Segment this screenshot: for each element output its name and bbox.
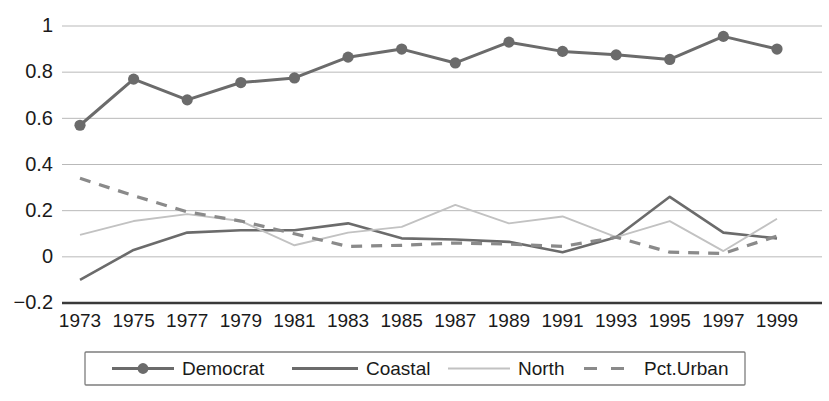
data-point-marker: [396, 43, 407, 54]
data-point-marker: [611, 49, 622, 60]
x-axis-tick-labels: 1973197519771979198119831985198719891991…: [59, 310, 798, 331]
x-axis-tick-label: 1995: [649, 310, 691, 331]
y-axis-tick-label: 0: [42, 245, 53, 267]
data-point-markers: [74, 31, 782, 131]
gridlines: [62, 26, 822, 303]
x-axis-tick-label: 1991: [541, 310, 583, 331]
data-point-marker: [557, 46, 568, 57]
chart-legend: DemocratCoastalNorthPct.Urban: [85, 352, 745, 385]
data-point-marker: [289, 72, 300, 83]
x-axis-tick-label: 1973: [59, 310, 101, 331]
y-axis-tick-label: 0.2: [25, 199, 53, 221]
x-axis-tick-label: 1987: [434, 310, 476, 331]
data-point-marker: [718, 31, 729, 42]
x-axis-tick-label: 1985: [381, 310, 423, 331]
data-point-marker: [182, 94, 193, 105]
x-axis-tick-label: 1983: [327, 310, 369, 331]
legend-label-pct-urban: Pct.Urban: [644, 358, 728, 379]
x-axis-tick-label: 1981: [273, 310, 315, 331]
legend-label-coastal: Coastal: [366, 358, 430, 379]
y-axis-tick-label: 0.6: [25, 107, 53, 129]
data-point-marker: [771, 43, 782, 54]
data-point-marker: [503, 37, 514, 48]
line-chart: 10.80.60.40.20−0.2 197319751977197919811…: [0, 0, 829, 401]
data-point-marker: [74, 120, 85, 131]
y-axis-tick-label: 0.4: [25, 153, 53, 175]
legend-marker-democrat: [138, 363, 149, 374]
x-axis-tick-label: 1979: [220, 310, 262, 331]
data-point-marker: [450, 57, 461, 68]
x-axis-tick-label: 1999: [756, 310, 798, 331]
data-point-marker: [342, 52, 353, 63]
y-axis-tick-label: 0.8: [25, 60, 53, 82]
x-axis-tick-label: 1975: [112, 310, 154, 331]
y-axis-tick-label: 1: [42, 14, 53, 36]
chart-canvas: 10.80.60.40.20−0.2 197319751977197919811…: [0, 0, 829, 401]
legend-label-north: North: [518, 358, 564, 379]
x-axis-tick-label: 1989: [488, 310, 530, 331]
y-axis-tick-label: −0.2: [14, 291, 53, 313]
x-axis-tick-label: 1997: [702, 310, 744, 331]
data-series-group: [80, 36, 777, 280]
data-point-marker: [664, 54, 675, 65]
y-axis-tick-labels: 10.80.60.40.20−0.2: [14, 14, 53, 313]
legend-label-democrat: Democrat: [182, 358, 265, 379]
series-line-democrat: [80, 36, 777, 125]
x-axis-tick-label: 1977: [166, 310, 208, 331]
series-line-coastal: [80, 197, 777, 280]
x-axis-tick-label: 1993: [595, 310, 637, 331]
data-point-marker: [235, 77, 246, 88]
data-point-marker: [128, 73, 139, 84]
